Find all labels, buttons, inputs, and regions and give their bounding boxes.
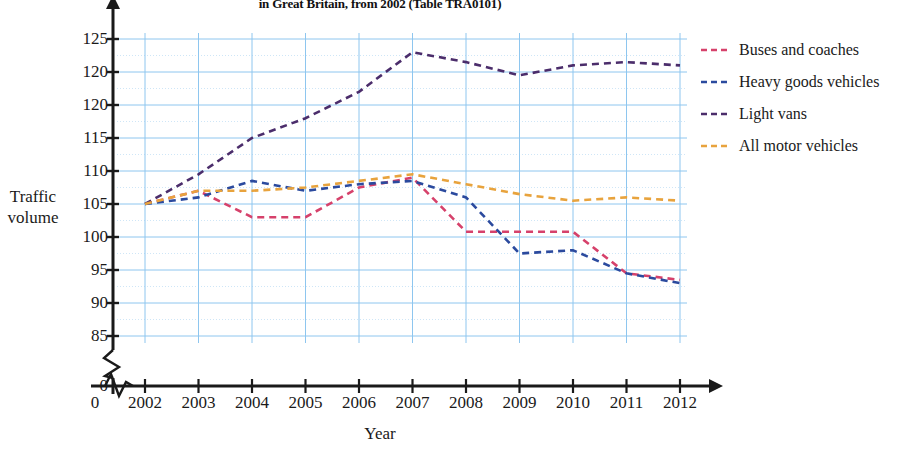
legend-swatch-dashed-line-icon [700,109,732,119]
legend-item[interactable]: Light vans [700,98,916,130]
y-tick-label: 95 [62,261,108,278]
legend-label: Buses and coaches [739,41,859,59]
x-axis-arrow [709,379,723,393]
y-tick-label: 105 [62,195,108,212]
plot-area [117,33,687,343]
y-tick-label: 125 [62,30,108,47]
legend-item[interactable]: All motor vehicles [700,130,916,162]
x-tick-label: 2007 [396,393,430,413]
x-tick-label: 2005 [289,393,323,413]
x-tick-label: 2002 [128,393,162,413]
x-tick-label: 2011 [610,393,643,413]
x-tick-label: 2004 [235,393,269,413]
y-axis-title-line: volume [4,207,62,228]
y-tick-label: 90 [62,294,108,311]
chart-legend: Buses and coachesHeavy goods vehiclesLig… [700,34,916,162]
x-tick-label: 2010 [556,393,590,413]
x-tick-label: 0 [91,393,100,413]
y-axis-tick-labels: 1251201201151101051009590850 [62,33,108,343]
legend-swatch-dashed-line-icon [700,77,732,87]
legend-item[interactable]: Heavy goods vehicles [700,66,916,98]
legend-label: Heavy goods vehicles [739,73,879,91]
chart-title: in Great Britain, from 2002 (Table TRA01… [0,0,760,12]
legend-label: All motor vehicles [739,137,858,155]
x-axis-title: Year [0,424,760,444]
y-tick-label: 115 [62,129,108,146]
x-tick-label: 2012 [663,393,697,413]
y-axis-break-zigzag [104,350,119,378]
y-tick-label: 110 [62,162,108,179]
x-tick-label: 2006 [342,393,376,413]
x-tick-label: 2003 [182,393,216,413]
y-axis-title-line: Traffic [4,186,62,207]
legend-label: Light vans [739,105,807,123]
x-tick-label: 2009 [503,393,537,413]
legend-swatch-dashed-line-icon [700,141,732,151]
y-tick-label: 120 [62,96,108,113]
legend-item[interactable]: Buses and coaches [700,34,916,66]
x-axis-tick-labels: 0200220032004200520062007200820092010201… [0,393,916,417]
y-tick-label: 85 [62,327,108,344]
y-tick-label: 120 [62,63,108,80]
x-tick-label: 2008 [449,393,483,413]
legend-swatch-dashed-line-icon [700,45,732,55]
y-tick-label: 100 [62,228,108,245]
y-tick-label-zero: 0 [62,377,108,394]
y-axis-title: Trafficvolume [4,186,62,228]
plot-svg [117,33,687,343]
